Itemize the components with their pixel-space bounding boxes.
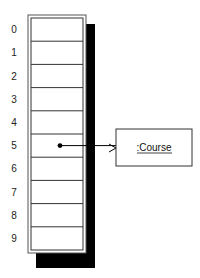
course-object-label: :Course: [136, 142, 171, 153]
array-index-label: 2: [11, 71, 17, 82]
array-index-label: 9: [11, 233, 17, 244]
array-index-label: 6: [11, 163, 17, 174]
array-index-label: 8: [11, 210, 17, 221]
array-index-label: 5: [11, 140, 17, 151]
array-index-label: 3: [11, 94, 17, 105]
array-index-label: 0: [11, 24, 17, 35]
array-diagram: 0123456789 :Course: [0, 0, 200, 278]
array-index-label: 4: [11, 117, 17, 128]
array-index-label: 1: [11, 47, 17, 58]
array-shadow-bottom: [36, 253, 95, 268]
array-index-label: 7: [11, 187, 17, 198]
